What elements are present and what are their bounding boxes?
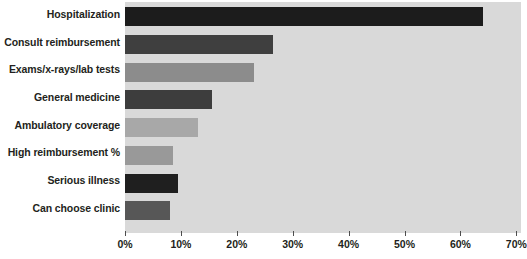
- plot-area: [125, 2, 521, 233]
- category-label-exams-xrays-lab-tests: Exams/x-rays/lab tests: [0, 64, 120, 75]
- axis-tick-label-60pct: 60%: [450, 239, 471, 250]
- bar-exams-xrays-lab-tests: [125, 63, 254, 82]
- category-label-ambulatory-coverage: Ambulatory coverage: [0, 120, 120, 131]
- axis-tick-10pct: [181, 231, 182, 236]
- axis-tick-label-50pct: 50%: [394, 239, 415, 250]
- bar-high-reimbursement: [125, 146, 173, 165]
- bar-chart: Hospitalization Consult reimbursement Ex…: [0, 0, 527, 259]
- bar-ambulatory-coverage: [125, 118, 198, 137]
- axis-tick-0pct: [125, 231, 126, 236]
- axis-tick-label-10pct: 10%: [170, 239, 191, 250]
- category-label-serious-illness: Serious illness: [0, 175, 120, 186]
- category-axis-labels: Hospitalization Consult reimbursement Ex…: [0, 0, 120, 228]
- axis-tick-60pct: [460, 231, 461, 236]
- axis-tick-label-30pct: 30%: [282, 239, 303, 250]
- axis-tick-70pct: [516, 231, 517, 236]
- axis-tick-label-40pct: 40%: [338, 239, 359, 250]
- bar-can-choose-clinic: [125, 201, 170, 220]
- category-label-can-choose-clinic: Can choose clinic: [0, 203, 120, 214]
- axis-tick-30pct: [293, 231, 294, 236]
- bar-consult-reimbursement: [125, 35, 273, 54]
- axis-tick-label-20pct: 20%: [226, 239, 247, 250]
- category-label-high-reimbursement: High reimbursement %: [0, 147, 120, 158]
- axis-tick-label-0pct: 0%: [117, 239, 132, 250]
- axis-tick-50pct: [405, 231, 406, 236]
- bar-serious-illness: [125, 174, 178, 193]
- category-label-hospitalization: Hospitalization: [0, 9, 120, 20]
- axis-tick-40pct: [349, 231, 350, 236]
- axis-tick-20pct: [237, 231, 238, 236]
- axis-tick-label-70pct: 70%: [506, 239, 527, 250]
- category-label-consult-reimbursement: Consult reimbursement: [0, 37, 120, 48]
- value-axis: 0%10%20%30%40%50%60%70%: [0, 231, 527, 259]
- bar-general-medicine: [125, 90, 212, 109]
- category-label-general-medicine: General medicine: [0, 92, 120, 103]
- bar-hospitalization: [125, 7, 483, 26]
